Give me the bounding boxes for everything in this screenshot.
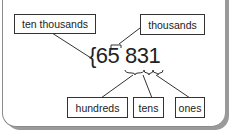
digit-thousands: 5 [108,43,120,68]
ones-label: ones [175,97,205,118]
digit-tens: 3 [137,43,149,68]
brace: { [89,43,96,68]
ten-thousands-label: ten thousands [14,14,96,34]
tens-label: tens [133,97,164,118]
digit-hundreds: 8 [125,43,137,68]
number-display: {65 831 [89,43,160,69]
digit-ones: 1 [148,43,160,68]
thousands-label: thousands [140,14,205,35]
digit-ten-thousands: 6 [96,43,108,68]
hundreds-label: hundreds [67,97,128,118]
